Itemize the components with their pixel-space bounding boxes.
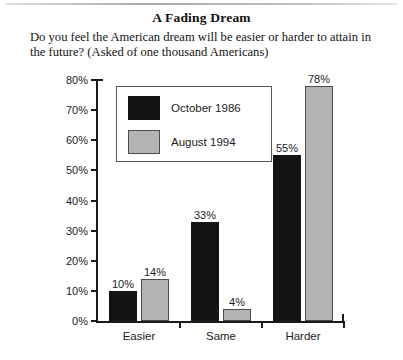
y-axis-tick-label: 80% — [66, 74, 88, 86]
x-axis-tick — [179, 321, 181, 328]
x-axis-tick — [261, 321, 263, 328]
legend-swatch-october-1986 — [128, 96, 160, 120]
y-axis-tick-label: 30% — [66, 225, 88, 237]
legend-entry-0: October 1986 — [128, 96, 241, 120]
y-axis-tick — [91, 200, 98, 202]
x-axis-category-label: Easier — [98, 330, 180, 342]
y-axis-tick-label: 0% — [72, 315, 88, 327]
bar-easier-august-1994: 14% — [141, 279, 169, 321]
bar-value-label: 10% — [112, 278, 134, 290]
bar-group-harder: 55%78%Harder — [262, 80, 344, 321]
y-axis-tick — [91, 260, 98, 262]
bar-harder-august-1994: 78% — [305, 86, 333, 321]
y-axis-tick — [91, 230, 98, 232]
bar-value-label: 55% — [276, 142, 298, 154]
y-axis-tick — [91, 109, 98, 111]
legend-label-october-1986: October 1986 — [171, 102, 241, 114]
bar-same-august-1994: 4% — [223, 309, 251, 321]
y-axis-tick-label: 10% — [66, 285, 88, 297]
bar-harder-october-1986: 55% — [273, 155, 301, 321]
chart-title: A Fading Dream — [0, 10, 403, 26]
y-axis-tick — [91, 169, 98, 171]
chart-figure: A Fading Dream Do you feel the American … — [0, 0, 403, 360]
legend-swatch-august-1994 — [128, 130, 160, 154]
y-axis-tick — [91, 79, 98, 81]
bar-same-october-1986: 33% — [191, 222, 219, 321]
x-axis-tick — [343, 321, 345, 328]
chart-subtitle: Do you feel the American dream will be e… — [30, 30, 382, 59]
x-axis-line — [96, 321, 344, 323]
bar-easier-october-1986: 10% — [109, 291, 137, 321]
y-axis-tick-label: 20% — [66, 255, 88, 267]
y-axis-tick-label: 50% — [66, 164, 88, 176]
bar-value-label: 4% — [229, 296, 245, 308]
legend-label-august-1994: August 1994 — [171, 136, 236, 148]
y-axis-tick-label: 40% — [66, 195, 88, 207]
x-axis-category-label: Same — [180, 330, 262, 342]
page-top-rule — [6, 3, 398, 5]
y-axis-tick-label: 60% — [66, 134, 88, 146]
y-axis-tick-label: 70% — [66, 104, 88, 116]
chart-legend: October 1986 August 1994 — [116, 86, 272, 162]
bar-value-label: 33% — [194, 209, 216, 221]
y-axis-tick — [91, 290, 98, 292]
bar-value-label: 78% — [308, 73, 330, 85]
plot-area: 0%10%20%30%40%50%60%70%80% 10%14%Easier3… — [98, 80, 344, 321]
bar-value-label: 14% — [144, 266, 166, 278]
y-axis-tick — [91, 320, 98, 322]
y-axis-tick — [91, 139, 98, 141]
legend-entry-1: August 1994 — [128, 130, 236, 154]
x-axis-category-label: Harder — [262, 330, 344, 342]
